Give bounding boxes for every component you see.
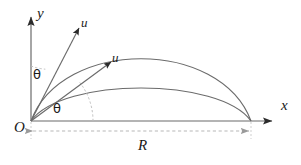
diagram-canvas — [0, 0, 301, 165]
angle-label-high-angle: θ — [33, 68, 41, 81]
low-angle-trajectory-curve — [31, 88, 251, 121]
projectile-range-diagram: y x O R u u θ θ — [0, 0, 301, 165]
x-axis-label: x — [281, 98, 288, 113]
velocity-label-low-angle: u — [112, 51, 119, 64]
angle-arc-low — [80, 83, 93, 122]
range-label: R — [138, 138, 147, 153]
y-axis-label: y — [37, 6, 44, 21]
velocity-label-high-angle: u — [81, 16, 88, 29]
angle-label-low-angle: θ — [53, 102, 61, 115]
high-angle-trajectory-curve — [31, 59, 251, 121]
origin-label: O — [14, 120, 25, 135]
